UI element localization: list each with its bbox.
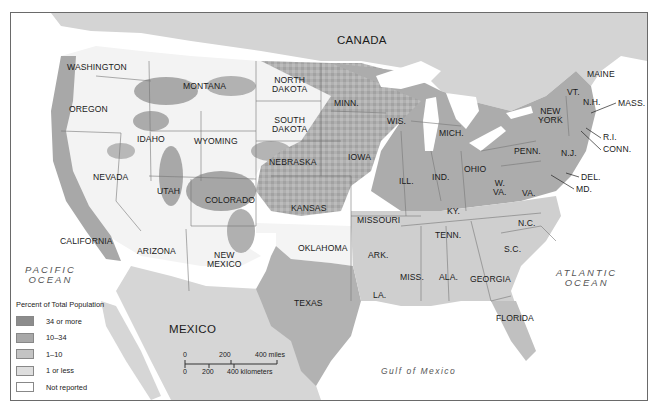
legend-item-34-or-more: 34 or more	[16, 313, 166, 330]
country-label-mexico: MEXICO	[169, 324, 216, 336]
ocean-label-pacific: PACIFIC OCEAN	[25, 265, 76, 285]
legend-swatch	[16, 316, 34, 326]
legend-swatch	[16, 366, 34, 376]
state-label-new-york: NEW YORK	[538, 107, 563, 124]
state-label-wva: W. VA.	[493, 179, 507, 196]
state-label-colorado: COLORADO	[205, 196, 255, 205]
state-label-utah: UTAH	[157, 187, 180, 196]
state-label-missouri: MISSOURI	[357, 216, 400, 225]
state-label-wis: WIS.	[387, 117, 406, 126]
florida-region	[491, 301, 536, 361]
state-label-nc: N.C.	[518, 219, 536, 228]
state-label-va: VA.	[522, 189, 536, 198]
state-label-nebraska: NEBRASKA	[269, 158, 317, 167]
state-label-new-mexico: NEW MEXICO	[207, 251, 242, 268]
state-label-ind: IND.	[432, 173, 450, 182]
country-label-canada: CANADA	[337, 35, 387, 47]
legend-item-1-10: 1–10	[16, 346, 166, 363]
state-label-ri: R.I.	[603, 133, 617, 142]
state-label-nj: N.J.	[561, 149, 577, 158]
ocean-label-gulf-of-mexico: Gulf of Mexico	[381, 367, 456, 376]
legend-swatch	[16, 382, 34, 392]
legend-item-not-reported: Not reported	[16, 379, 166, 396]
state-label-tenn: TENN.	[435, 231, 461, 240]
state-label-florida: FLORIDA	[496, 314, 534, 323]
state-label-ill: ILL.	[399, 177, 414, 186]
state-label-la: LA.	[373, 291, 386, 300]
state-label-georgia: GEORGIA	[470, 275, 511, 284]
state-label-mich: MICH.	[439, 129, 464, 138]
state-label-ohio: OHIO	[464, 165, 486, 174]
state-label-nh: N.H.	[583, 98, 601, 107]
state-label-north-dakota: NORTH DAKOTA	[272, 76, 307, 93]
state-label-ark: ARK.	[368, 251, 388, 260]
state-label-miss: MISS.	[400, 273, 424, 282]
state-label-washington: WASHINGTON	[67, 63, 127, 72]
legend-swatch	[16, 333, 34, 343]
state-label-penn: PENN.	[514, 147, 541, 156]
state-label-minn: MINN.	[334, 99, 359, 108]
state-label-sc: S.C.	[504, 245, 521, 254]
state-label-conn: CONN.	[603, 145, 631, 154]
state-label-nevada: NEVADA	[93, 173, 128, 182]
state-label-maine: MAINE	[587, 70, 615, 79]
state-label-idaho: IDAHO	[137, 135, 165, 144]
state-label-kansas: KANSAS	[291, 204, 326, 213]
state-label-del: DEL.	[581, 173, 601, 182]
state-label-ala: ALA.	[439, 273, 458, 282]
map-legend: Percent of Total Population 34 or more 1…	[16, 300, 166, 396]
state-label-arizona: ARIZONA	[137, 247, 176, 256]
state-label-oklahoma: OKLAHOMA	[298, 244, 348, 253]
legend-title: Percent of Total Population	[16, 300, 166, 309]
ocean-label-atlantic: ATLANTIC OCEAN	[556, 268, 617, 288]
state-label-south-dakota: SOUTH DAKOTA	[272, 116, 307, 133]
state-label-montana: MONTANA	[183, 82, 226, 91]
state-label-texas: TEXAS	[294, 299, 323, 308]
legend-item-1-or-less: 1 or less	[16, 363, 166, 380]
state-label-wyoming: WYOMING	[194, 137, 238, 146]
state-label-iowa: IOWA	[348, 153, 371, 162]
state-label-ky: KY.	[447, 207, 460, 216]
legend-item-10-34: 10–34	[16, 330, 166, 347]
legend-swatch	[16, 349, 34, 359]
state-label-california: CALIFORNIA	[60, 237, 113, 246]
state-label-md: MD.	[576, 185, 592, 194]
scale-bar-line	[184, 360, 284, 368]
state-label-oregon: OREGON	[69, 105, 108, 114]
state-label-mass: MASS.	[618, 99, 645, 108]
scale-bar: 0 200 400 miles 0 200 400 kilometers	[183, 351, 323, 381]
state-label-vt: VT.	[567, 88, 580, 97]
